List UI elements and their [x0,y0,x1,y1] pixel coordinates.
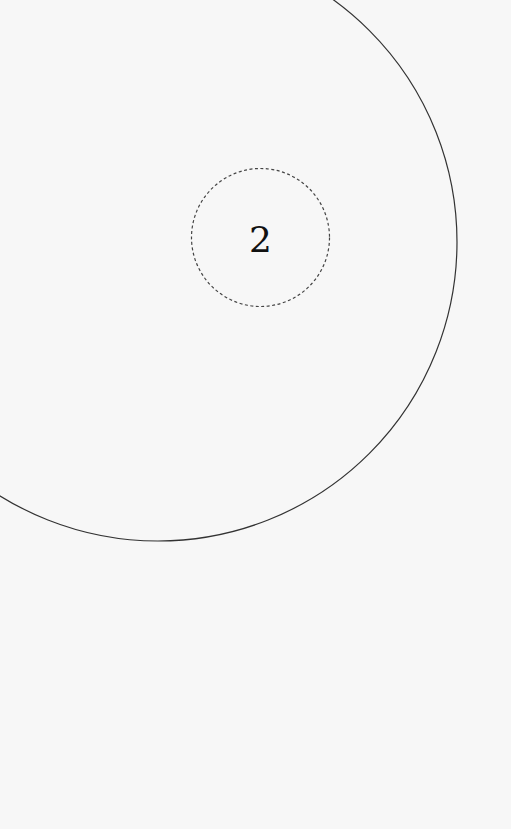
diagram-canvas: 2 [0,0,511,829]
circle-number-label: 2 [249,219,272,260]
background [0,0,511,829]
